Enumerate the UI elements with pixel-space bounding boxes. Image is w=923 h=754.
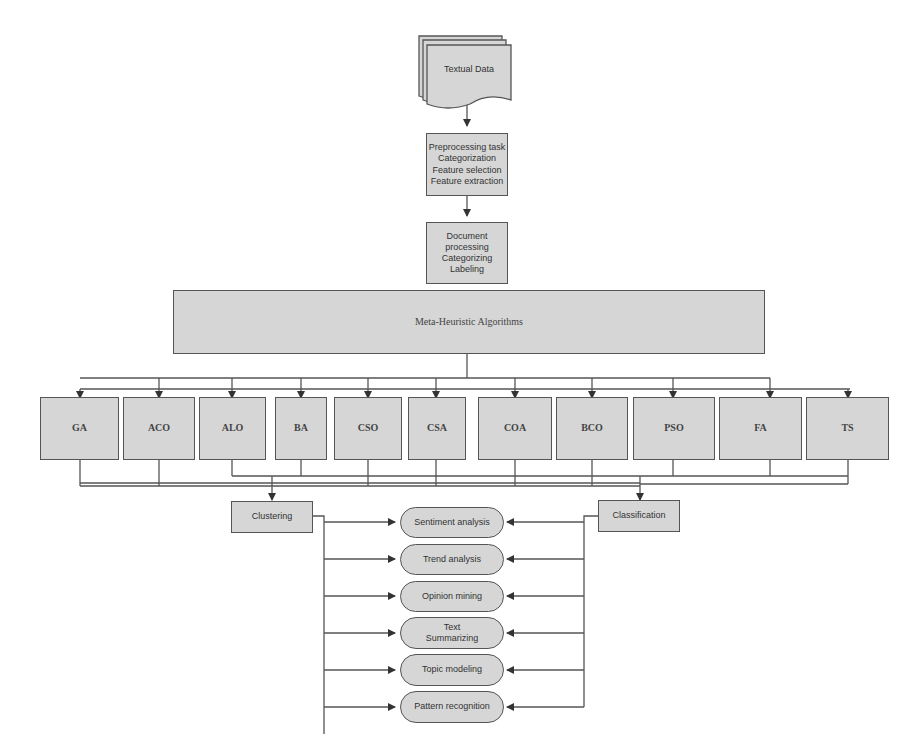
meta-heuristic-algorithms-box: Meta-Heuristic Algorithms: [173, 290, 765, 354]
algorithm-fa: FA: [719, 397, 802, 460]
application-topic-modeling: Topic modeling: [400, 654, 504, 686]
algorithm-pso: PSO: [633, 397, 715, 460]
application-sentiment-analysis: Sentiment analysis: [400, 507, 504, 538]
algorithm-cso: CSO: [334, 397, 402, 460]
textual-data-label: Textual Data: [427, 45, 511, 95]
algorithm-aco: ACO: [123, 397, 195, 460]
algorithm-bco: BCO: [556, 397, 628, 460]
algorithm-coa: COA: [478, 397, 552, 460]
application-trend-analysis: Trend analysis: [400, 544, 504, 575]
algorithm-ga: GA: [40, 397, 119, 460]
algorithm-alo: ALO: [199, 397, 266, 460]
document-processing-box: Document processing Categorizing Labelin…: [426, 222, 508, 284]
classification-box: Classification: [598, 500, 680, 532]
application-text-summarizing: Text Summarizing: [400, 617, 504, 649]
meta-heuristic-text-mining-diagram: Textual Data Preprocessing task Categori…: [0, 0, 923, 754]
algorithm-csa: CSA: [408, 397, 466, 460]
algorithm-ba: BA: [275, 397, 327, 460]
clustering-box: Clustering: [231, 501, 313, 533]
preprocessing-box: Preprocessing task Categorization Featur…: [426, 133, 508, 196]
application-opinion-mining: Opinion mining: [400, 581, 504, 612]
application-pattern-recognition: Pattern recognition: [400, 691, 504, 723]
algorithm-ts: TS: [806, 397, 889, 460]
